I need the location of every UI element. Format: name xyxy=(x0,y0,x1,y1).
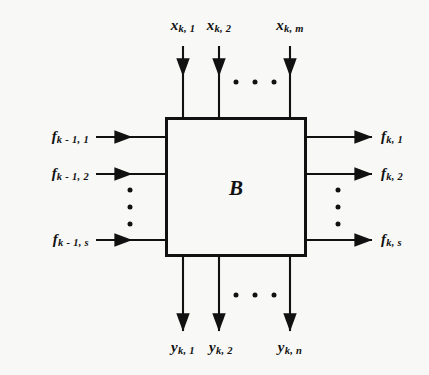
ellipsis-dot xyxy=(272,293,277,298)
left-input-label-2-sub: k - 1, 2 xyxy=(57,171,89,182)
top-input-label-1-base: x xyxy=(171,17,179,33)
top-input-label-2-base: x xyxy=(207,17,215,33)
left-input-label-3: fk - 1, s xyxy=(53,232,89,249)
top-input-label-1-sub: k, 1 xyxy=(178,23,195,34)
left-input-label-1: fk - 1, 1 xyxy=(52,129,89,146)
right-output-label-1: fk, 1 xyxy=(381,129,403,146)
ellipsis-dot xyxy=(253,80,258,85)
right-output-label-3: fk, s xyxy=(381,232,402,249)
ellipsis-dot xyxy=(336,205,341,210)
bottom-output-label-3-base: y xyxy=(278,339,285,355)
block-diagram-figure: B xk, 1 xk, 2 xk, m fk - 1, 1 fk - 1, 2 xyxy=(0,0,429,375)
left-input-label-2: fk - 1, 2 xyxy=(52,166,89,183)
ellipsis-dot xyxy=(234,293,239,298)
top-input-label-3-base: x xyxy=(276,17,284,33)
right-output-label-2-sub: k, 2 xyxy=(386,171,403,182)
bottom-output-label-2-base: y xyxy=(209,339,216,355)
ellipsis-dot xyxy=(128,205,133,210)
top-input-label-3-sub: k, m xyxy=(284,23,304,34)
top-input-label-3: xk, m xyxy=(276,18,304,35)
right-output-label-3-sub: k, s xyxy=(386,237,402,248)
top-input-label-1: xk, 1 xyxy=(171,18,196,35)
bottom-output-label-2: yk, 2 xyxy=(209,340,233,357)
bottom-output-label-1-base: y xyxy=(171,339,178,355)
ellipsis-dot xyxy=(128,188,133,193)
ellipsis-dot xyxy=(128,222,133,227)
top-input-label-2-sub: k, 2 xyxy=(214,23,231,34)
left-input-label-1-sub: k - 1, 1 xyxy=(57,134,89,145)
bottom-output-label-3-sub: k, n xyxy=(285,345,303,356)
bottom-output-label-1: yk, 1 xyxy=(171,340,195,357)
ellipsis-dot xyxy=(336,222,341,227)
ellipsis-dot xyxy=(253,293,258,298)
ellipsis-dot xyxy=(336,188,341,193)
bottom-output-label-3: yk, n xyxy=(278,340,302,357)
block-label: B xyxy=(229,176,243,201)
ellipsis-dot xyxy=(234,80,239,85)
right-output-label-2: fk, 2 xyxy=(381,166,403,183)
bottom-output-label-2-sub: k, 2 xyxy=(216,345,233,356)
left-input-label-3-sub: k - 1, s xyxy=(58,237,89,248)
ellipsis-dot xyxy=(272,80,277,85)
top-input-label-2: xk, 2 xyxy=(207,18,232,35)
right-output-label-1-sub: k, 1 xyxy=(386,134,403,145)
bottom-output-label-1-sub: k, 1 xyxy=(178,345,195,356)
